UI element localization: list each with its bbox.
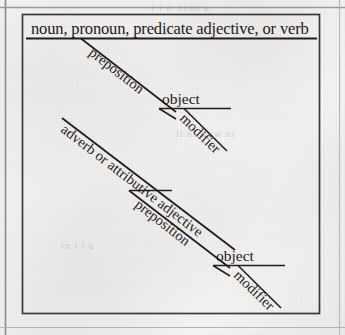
diagram-canvas — [0, 0, 345, 335]
modifier-slant-bottom — [238, 266, 281, 309]
figure-border-box — [23, 15, 320, 314]
base-slant-bottom — [62, 118, 235, 250]
page-frame — [0, 0, 345, 335]
upper-group — [26, 39, 317, 152]
scanned-page: a nnin n i i in with in it a l i ni — [0, 0, 345, 335]
preposition-slant-top — [81, 39, 176, 113]
preposition-slant-bottom — [129, 191, 230, 269]
lower-group — [62, 118, 285, 308]
modifier-slant-top — [184, 109, 227, 152]
